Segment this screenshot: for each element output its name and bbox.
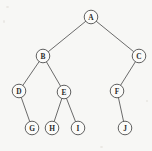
edge-layer <box>21 21 135 121</box>
node-layer: ABCDEFGHIJ <box>12 10 146 135</box>
tree-node-i[interactable]: I <box>71 121 85 135</box>
binary-tree-diagram: ABCDEFGHIJ <box>0 0 152 151</box>
tree-edge-e-h <box>54 98 62 121</box>
tree-edge-c-f <box>121 62 136 85</box>
node-circle-i <box>71 121 85 135</box>
tree-node-f[interactable]: F <box>110 84 124 98</box>
tree-edge-a-c <box>96 21 133 51</box>
node-circle-f <box>110 84 124 98</box>
scan-artifact <box>146 100 148 102</box>
tree-node-e[interactable]: E <box>57 85 71 99</box>
tree-edge-b-d <box>23 62 39 86</box>
node-circle-d <box>12 84 26 98</box>
node-circle-e <box>57 85 71 99</box>
tree-edge-f-j <box>118 98 123 122</box>
tree-node-g[interactable]: G <box>25 121 39 135</box>
tree-node-a[interactable]: A <box>84 10 98 24</box>
tree-edge-e-i <box>66 98 75 121</box>
tree-edge-d-g <box>21 97 30 121</box>
tree-edge-b-e <box>46 62 60 86</box>
node-circle-h <box>45 121 59 135</box>
tree-node-c[interactable]: C <box>132 49 146 63</box>
node-circle-a <box>84 10 98 24</box>
tree-edge-a-b <box>48 21 85 51</box>
scan-artifact <box>3 20 5 23</box>
tree-graphic: ABCDEFGHIJ <box>0 0 152 151</box>
scan-artifact <box>6 6 9 8</box>
tree-node-b[interactable]: B <box>36 49 50 63</box>
tree-node-d[interactable]: D <box>12 84 26 98</box>
tree-node-h[interactable]: H <box>45 121 59 135</box>
scan-artifact <box>100 146 103 148</box>
node-circle-b <box>36 49 50 63</box>
node-circle-j <box>118 121 132 135</box>
node-circle-c <box>132 49 146 63</box>
node-circle-g <box>25 121 39 135</box>
tree-node-j[interactable]: J <box>118 121 132 135</box>
